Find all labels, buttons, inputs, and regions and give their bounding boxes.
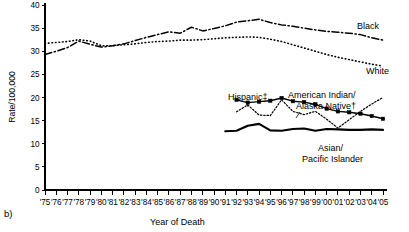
x-tick-label: '05 <box>378 198 389 207</box>
series-marker-hispanic <box>381 117 384 120</box>
x-tick-label: '92 <box>231 198 242 207</box>
y-tick-label: 30 <box>30 47 40 56</box>
x-tick-label: '02 <box>344 198 355 207</box>
y-tick-label: 40 <box>30 1 40 10</box>
y-tick-label: 35 <box>30 24 40 33</box>
y-tick-label: 5 <box>35 163 40 172</box>
series-marker-hispanic <box>257 100 260 103</box>
y-tick-label: 10 <box>30 140 40 149</box>
series-marker-hispanic <box>325 107 328 110</box>
x-tick-label: '86 <box>164 198 175 207</box>
x-tick-label: '95 <box>265 198 276 207</box>
x-tick-label: '90 <box>209 198 220 207</box>
series-line-white <box>45 37 383 66</box>
x-tick-label: '99 <box>310 198 321 207</box>
series-marker-hispanic <box>370 114 373 117</box>
series-marker-hispanic <box>280 96 283 99</box>
x-tick-label: '04 <box>366 198 377 207</box>
x-tick-label: '98 <box>299 198 310 207</box>
x-tick-label: '76 <box>51 198 62 207</box>
series-line-asian-pacific-islander <box>225 124 383 131</box>
x-tick-label: '03 <box>355 198 366 207</box>
x-tick-label: '91 <box>220 198 231 207</box>
x-tick-label: '01 <box>333 198 344 207</box>
x-tick-label: '87 <box>175 198 186 207</box>
x-tick-label: '79 <box>85 198 96 207</box>
x-tick-label: '88 <box>186 198 197 207</box>
y-tick-label: 25 <box>30 70 40 79</box>
x-tick-label: '85 <box>152 198 163 207</box>
line-chart-svg: 0510152025303540'75'76'77'78'79'80'81'82… <box>0 0 409 232</box>
x-tick-label: '94 <box>254 198 265 207</box>
series-marker-hispanic <box>348 111 351 114</box>
x-tick-label: '75 <box>40 198 51 207</box>
x-tick-label: '81 <box>107 198 118 207</box>
x-tick-label: '78 <box>73 198 84 207</box>
x-tick-label: '83 <box>130 198 141 207</box>
series-marker-hispanic <box>302 100 305 103</box>
series-marker-hispanic <box>269 99 272 102</box>
x-tick-label: '77 <box>62 198 73 207</box>
x-tick-label: '80 <box>96 198 107 207</box>
y-tick-label: 15 <box>30 117 40 126</box>
x-tick-label: '89 <box>197 198 208 207</box>
series-annotations <box>246 101 300 118</box>
x-tick-label: '00 <box>321 198 332 207</box>
x-tick-label: '96 <box>276 198 287 207</box>
series-marker-hispanic <box>336 110 339 113</box>
x-tick-label: '84 <box>141 198 152 207</box>
x-tick-label: '93 <box>242 198 253 207</box>
series-group <box>45 19 385 131</box>
y-tick-label: 0 <box>35 186 40 195</box>
series-line-black <box>45 19 383 54</box>
series-marker-hispanic <box>235 98 238 101</box>
x-tick-label: '82 <box>119 198 130 207</box>
y-tick-label: 20 <box>30 94 40 103</box>
x-tick-label: '97 <box>288 198 299 207</box>
series-marker-hispanic <box>314 103 317 106</box>
series-marker-hispanic <box>291 100 294 103</box>
chart-container: 0510152025303540'75'76'77'78'79'80'81'82… <box>0 0 409 232</box>
